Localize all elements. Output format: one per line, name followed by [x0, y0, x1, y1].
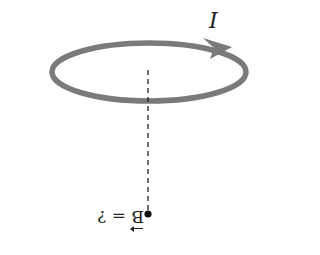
field-vector-symbol: B — [132, 207, 145, 227]
field-question-label: B = ? — [100, 201, 144, 227]
current-label: I — [209, 8, 218, 33]
field-point — [144, 210, 151, 217]
equals-sign: = — [112, 207, 126, 227]
question-mark: ? — [97, 207, 106, 227]
